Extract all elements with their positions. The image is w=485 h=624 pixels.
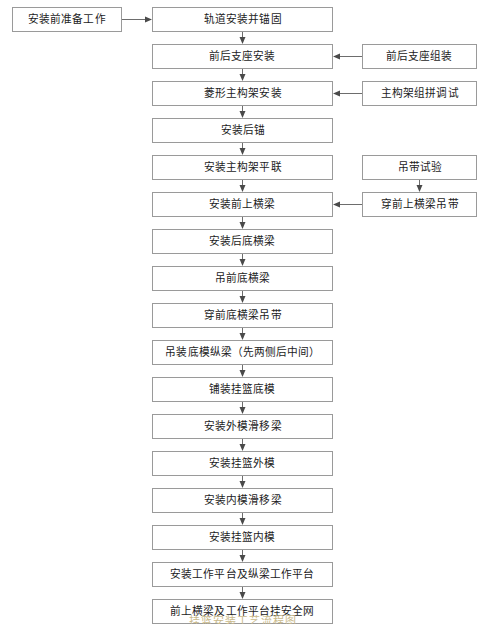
- node-m6[interactable]: 安装前上横梁: [152, 192, 333, 217]
- node-m9[interactable]: 穿前底横梁吊带: [152, 303, 333, 328]
- node-m10[interactable]: 吊装底模纵梁（先两侧后中间）: [152, 340, 333, 365]
- node-label: 安装前上横梁: [209, 199, 275, 210]
- node-m8[interactable]: 吊前底横梁: [152, 266, 333, 291]
- node-preparation-work[interactable]: 安装前准备工作: [12, 7, 122, 32]
- node-s3[interactable]: 吊带试验: [362, 155, 477, 180]
- flowchart-canvas: 安装前准备工作 轨道安装并锚固 前后支座安装 菱形主构架安装 安装后锚 安装主构…: [0, 0, 485, 624]
- node-m11[interactable]: 铺装挂篮底模: [152, 377, 333, 402]
- node-label: 安装后底横梁: [209, 236, 275, 247]
- node-label: 主构架组拼调试: [381, 88, 458, 99]
- node-m7[interactable]: 安装后底横梁: [152, 229, 333, 254]
- node-m2[interactable]: 前后支座安装: [152, 44, 333, 69]
- node-m15[interactable]: 安装挂篮内模: [152, 525, 333, 550]
- node-label: 铺装挂篮底模: [209, 384, 275, 395]
- node-label: 轨道安装并锚固: [204, 14, 281, 25]
- node-s4[interactable]: 穿前上横梁吊带: [362, 192, 477, 217]
- node-s1[interactable]: 前后支座组装: [362, 44, 477, 69]
- node-s2[interactable]: 主构架组拼调试: [362, 81, 477, 106]
- figure-caption: 挂篮安装工艺流程图: [0, 612, 485, 624]
- node-m4[interactable]: 安装后锚: [152, 118, 333, 143]
- node-label: 安装挂篮内模: [209, 532, 275, 543]
- node-label: 安装挂篮外模: [209, 458, 275, 469]
- node-m16[interactable]: 安装工作平台及纵梁工作平台: [152, 562, 333, 587]
- node-label: 穿前上横梁吊带: [381, 199, 458, 210]
- node-m3[interactable]: 菱形主构架安装: [152, 81, 333, 106]
- node-label: 穿前底横梁吊带: [204, 310, 281, 321]
- node-label: 安装工作平台及纵梁工作平台: [171, 569, 315, 580]
- node-label: 吊带试验: [397, 162, 441, 173]
- node-label: 安装主构架平联: [204, 162, 281, 173]
- node-m14[interactable]: 安装内模滑移梁: [152, 488, 333, 513]
- node-m13[interactable]: 安装挂篮外模: [152, 451, 333, 476]
- node-label: 吊前底横梁: [215, 273, 270, 284]
- node-label: 菱形主构架安装: [204, 88, 281, 99]
- node-label: 前后支座安装: [209, 51, 275, 62]
- node-label: 前后支座组装: [386, 51, 452, 62]
- node-label: 安装内模滑移梁: [204, 495, 281, 506]
- node-label: 安装外模滑移梁: [204, 421, 281, 432]
- node-label: 安装前准备工作: [28, 14, 105, 25]
- node-m5[interactable]: 安装主构架平联: [152, 155, 333, 180]
- node-label: 安装后锚: [220, 125, 264, 136]
- node-m1[interactable]: 轨道安装并锚固: [152, 7, 333, 32]
- node-label: 吊装底模纵梁（先两侧后中间）: [165, 347, 320, 358]
- node-m12[interactable]: 安装外模滑移梁: [152, 414, 333, 439]
